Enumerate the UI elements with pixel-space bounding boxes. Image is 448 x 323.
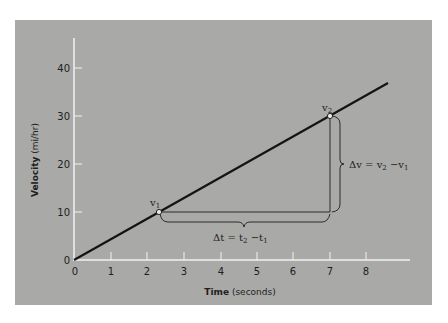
delta-t-brace xyxy=(160,213,330,227)
x-axis-title: Time (seconds) xyxy=(204,287,275,297)
label-v1: v1 xyxy=(149,197,160,210)
x-ticks xyxy=(111,252,366,260)
x-tick-label: 5 xyxy=(254,266,260,277)
y-tick-label: 20 xyxy=(57,159,70,170)
velocity-time-chart: 0 10 20 30 40 0 1 2 3 4 5 6 7 8 Time (se… xyxy=(0,0,448,323)
x-tick-label: 3 xyxy=(181,266,187,277)
x-tick-label: 1 xyxy=(108,266,114,277)
y-axis-title: Velocity (mi/hr) xyxy=(30,123,40,197)
y-tick-label: 30 xyxy=(57,111,70,122)
x-tick-label: 0 xyxy=(72,266,78,277)
delta-v-brace xyxy=(332,116,344,212)
y-ticks xyxy=(74,68,82,212)
x-tick-label: 4 xyxy=(218,266,224,277)
delta-v-label: Δv = v2 −v1 xyxy=(349,159,408,172)
x-tick-label: 8 xyxy=(363,266,369,277)
x-tick-label: 2 xyxy=(144,266,150,277)
y-tick-label: 0 xyxy=(64,255,70,266)
delta-t-label: Δt = t2 −t1 xyxy=(213,232,268,245)
y-tick-label: 40 xyxy=(57,63,70,74)
point-v1 xyxy=(156,209,161,214)
x-tick-label: 6 xyxy=(290,266,296,277)
x-tick-label: 7 xyxy=(327,266,333,277)
y-tick-label: 10 xyxy=(57,207,70,218)
label-v2: v2 xyxy=(321,102,332,115)
